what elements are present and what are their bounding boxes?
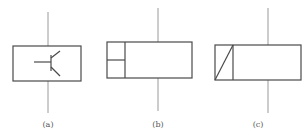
diagonal-line-c <box>215 45 233 80</box>
figure-a <box>13 12 81 113</box>
figure-b <box>107 8 192 111</box>
box-a <box>13 46 81 81</box>
label-b: (b) <box>152 120 163 129</box>
diagram-canvas <box>0 0 308 139</box>
label-c: (c) <box>253 120 264 129</box>
label-a: (a) <box>42 120 53 129</box>
box-c <box>215 45 301 80</box>
transistor-icon <box>34 51 60 76</box>
figure-c <box>215 8 301 113</box>
